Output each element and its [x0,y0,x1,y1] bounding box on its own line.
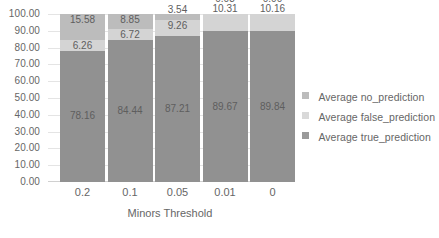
bar-value-label: 8.85 [108,15,153,25]
plot-area: 15.58 6.26 78.16 8.85 6.72 84.44 3.5 [48,14,292,182]
y-tick-label: 60.00 [0,76,40,86]
bar-segment-true-prediction[interactable]: 78.16 [60,51,105,182]
y-tick-label: 30.00 [0,127,40,137]
y-axis: 100.00 90.00 80.00 70.00 60.00 50.00 40.… [0,14,44,182]
legend-swatch-icon [302,92,309,99]
legend-swatch-icon [302,132,309,139]
legend-item-false-prediction[interactable]: Average false_prediction [302,106,439,126]
y-tick-label: 100.00 [0,9,40,19]
y-tick-label: 10.00 [0,160,40,170]
bar-column[interactable]: 15.58 6.26 78.16 [60,14,105,182]
bar-value-label: 3.54 [155,5,200,15]
bar-segment-false-prediction[interactable]: 10.16 [250,14,295,31]
bar-value-label: 84.44 [108,106,153,116]
legend-item-no-prediction[interactable]: Average no_prediction [302,86,439,106]
bar-column[interactable]: 0.03 10.31 89.67 [203,14,248,182]
x-tick-label: 0.1 [108,186,153,199]
y-tick-label: 50.00 [0,93,40,103]
legend-swatch-icon [302,112,309,119]
x-tick-label: 0 [250,186,295,199]
x-tick-label: 0.01 [203,186,248,199]
bar-segment-true-prediction[interactable]: 89.84 [250,31,295,182]
bar-segment-no-prediction[interactable]: 8.85 [108,14,153,29]
legend-item-true-prediction[interactable]: Average true_prediction [302,126,439,146]
bar-segment-false-prediction[interactable]: 6.26 [60,40,105,51]
y-tick-label: 20.00 [0,143,40,153]
x-axis-title: Minors Threshold [48,207,292,220]
bar-value-label: 15.58 [60,15,105,25]
bar-value-label: 78.16 [60,111,105,121]
y-tick-label: 90.00 [0,26,40,36]
bar-column[interactable]: 3.54 9.26 87.21 [155,14,200,182]
legend-label: Average no_prediction [318,87,424,107]
y-tick-label: 40.00 [0,110,40,120]
chart-legend: Average no_prediction Average false_pred… [302,86,439,146]
bar-segment-no-prediction[interactable]: 15.58 [60,14,105,40]
bar-value-label: 89.67 [203,102,248,112]
y-tick-label: 70.00 [0,59,40,69]
bar-value-label: 10.31 [203,4,248,14]
bar-value-label: 6.72 [108,30,153,40]
bar-column[interactable]: 0.00 10.16 89.84 [250,14,295,182]
bar-column[interactable]: 8.85 6.72 84.44 [108,14,153,182]
x-axis: 0.2 0.1 0.05 0.01 0 [48,186,292,202]
bar-value-label: 10.16 [250,4,295,14]
bar-value-label: 89.84 [250,102,295,112]
bar-segment-true-prediction[interactable]: 84.44 [108,40,153,182]
legend-label: Average false_prediction [318,107,435,127]
y-tick-label: 0.00 [0,177,40,187]
bar-segment-true-prediction[interactable]: 87.21 [155,36,200,183]
bar-segment-false-prediction[interactable]: 10.31 [203,14,248,31]
bar-value-label: 9.26 [155,21,200,31]
x-tick-label: 0.05 [155,186,200,199]
bar-segment-true-prediction[interactable]: 89.67 [203,31,248,182]
bar-segment-false-prediction[interactable]: 6.72 [108,29,153,40]
bar-value-label: 87.21 [155,104,200,114]
bar-segment-false-prediction[interactable]: 9.26 [155,20,200,36]
stacked-bar-chart: 100.00 90.00 80.00 70.00 60.00 50.00 40.… [0,0,439,238]
x-tick-label: 0.2 [60,186,105,199]
bar-value-label: 6.26 [60,41,105,51]
legend-label: Average true_prediction [318,127,430,147]
y-tick-label: 80.00 [0,43,40,53]
